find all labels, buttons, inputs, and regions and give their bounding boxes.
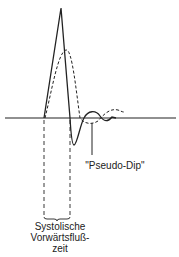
systolic-label-line-3: zeit [20,243,100,254]
pseudo-dip-label: "Pseudo-Dip" [80,160,150,171]
dashed-waveform [45,50,124,123]
systolic-label-line-2: Vorwärtsfluß- [20,232,100,243]
waveform-diagram [0,0,179,257]
systolic-label-line-1: Systolische [20,221,100,232]
systolic-forward-flow-label: Systolische Vorwärtsfluß- zeit [20,221,100,254]
